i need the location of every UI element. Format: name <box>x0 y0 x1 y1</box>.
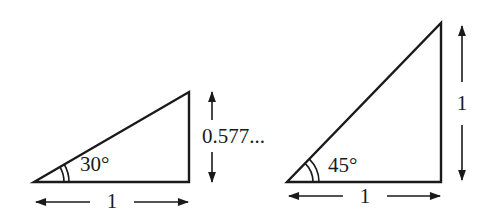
triangle-30: 30° 1 0.577... <box>34 92 265 213</box>
angle-arc-inner <box>60 167 64 182</box>
angle-label-45: 45° <box>328 153 357 177</box>
angle-label-30: 30° <box>80 152 109 176</box>
diagram-canvas: 30° 1 0.577... 45° 1 1 <box>0 0 496 219</box>
angle-arc-inner <box>305 164 313 182</box>
base-label-1: 1 <box>107 189 118 213</box>
height-label-0577: 0.577... <box>202 124 265 148</box>
base-label-1: 1 <box>360 184 371 208</box>
height-label-1: 1 <box>457 91 468 115</box>
triangle-30-outline <box>34 92 189 182</box>
angle-arc-outer <box>64 165 69 183</box>
triangle-45-outline <box>287 23 441 182</box>
triangle-45: 45° 1 1 <box>287 23 467 208</box>
